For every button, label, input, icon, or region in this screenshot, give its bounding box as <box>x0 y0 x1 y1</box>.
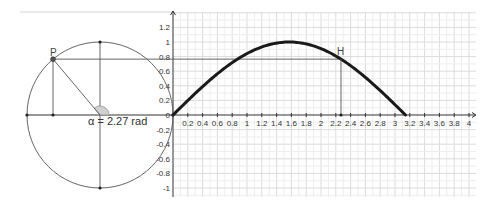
x-tick-label: 1.4 <box>271 119 283 128</box>
x-tick-label: 2 <box>319 119 324 128</box>
y-tick-labels: 1.210.80.60.40.20-0.2-0.4-0.6-0.8-1 <box>156 23 170 193</box>
y-tick-label: 1.2 <box>159 23 171 32</box>
y-tick-label: -0.8 <box>156 169 170 178</box>
y-tick-label: 1 <box>166 38 171 47</box>
circle-marker-point <box>51 113 54 116</box>
x-tick-label: 2.8 <box>375 119 387 128</box>
geometry-canvas[interactable]: 0.20.40.60.811.21.41.61.822.22.42.62.833… <box>0 0 496 205</box>
x-tick-label: 0.2 <box>182 119 194 128</box>
circle-marker-point <box>98 186 101 189</box>
circle-marker-point <box>98 40 101 43</box>
x-tick-label: 0.8 <box>227 119 239 128</box>
radius-op <box>53 59 100 115</box>
axes <box>27 11 476 197</box>
point-p-label: P <box>50 47 57 58</box>
x-tick-label: 3.2 <box>404 119 416 128</box>
x-tick-label: 1.6 <box>286 119 298 128</box>
y-tick-label: -1 <box>163 184 171 193</box>
origin-point <box>171 113 174 116</box>
circle-marker-point <box>25 113 28 116</box>
y-tick-label: 0.2 <box>159 96 171 105</box>
y-tick-label: -0.2 <box>156 126 170 135</box>
x-tick-label: 3 <box>393 119 398 128</box>
x-tick-label: 1.8 <box>301 119 313 128</box>
x-tick-label: 0.4 <box>197 119 209 128</box>
x-tick-label: 0.6 <box>212 119 224 128</box>
y-tick-label: 0.8 <box>159 53 171 62</box>
h-foot-point <box>339 113 342 116</box>
y-tick-label: 0 <box>166 111 171 120</box>
x-tick-label: 3.8 <box>449 119 461 128</box>
x-tick-label: 1.2 <box>256 119 268 128</box>
x-tick-label: 1 <box>245 119 250 128</box>
x-tick-label: 2.2 <box>330 119 342 128</box>
x-tick-label: 3.6 <box>434 119 446 128</box>
x-tick-label: 2.6 <box>360 119 372 128</box>
angle-label: α = 2.27 rad <box>88 115 147 127</box>
x-tick-label: 3.4 <box>419 119 431 128</box>
grid <box>173 12 476 197</box>
x-tick-label: 4 <box>467 119 472 128</box>
point-h-label: H <box>337 46 344 57</box>
x-tick-label: 2.4 <box>345 119 357 128</box>
diagram-svg: 0.20.40.60.811.21.41.61.822.22.42.62.833… <box>0 0 496 205</box>
